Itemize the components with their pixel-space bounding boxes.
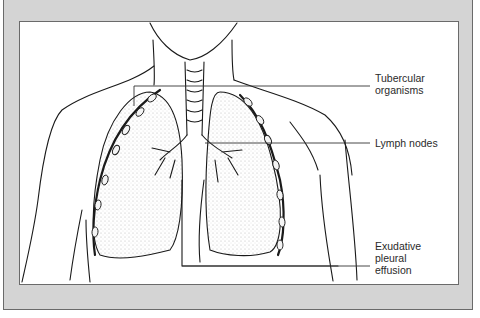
chin-outline [150,23,237,60]
label-exudative-pleural-effusion: Exudative pleural effusion [375,240,421,276]
label-lymph-nodes: Lymph nodes [375,137,438,149]
label-tubercular-organisms: Tubercular organisms [375,72,425,96]
